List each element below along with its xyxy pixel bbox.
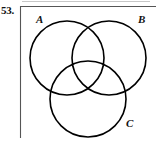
venn-diagram-canvas: A B C bbox=[0, 0, 156, 142]
set-label-b: B bbox=[137, 13, 145, 25]
venn-circle-b bbox=[72, 21, 146, 95]
set-label-c: C bbox=[126, 117, 134, 129]
set-label-a: A bbox=[35, 13, 43, 25]
venn-diagram-figure: 53. A B C bbox=[0, 0, 156, 142]
venn-circle-c bbox=[50, 61, 126, 137]
venn-circle-a bbox=[30, 21, 104, 95]
